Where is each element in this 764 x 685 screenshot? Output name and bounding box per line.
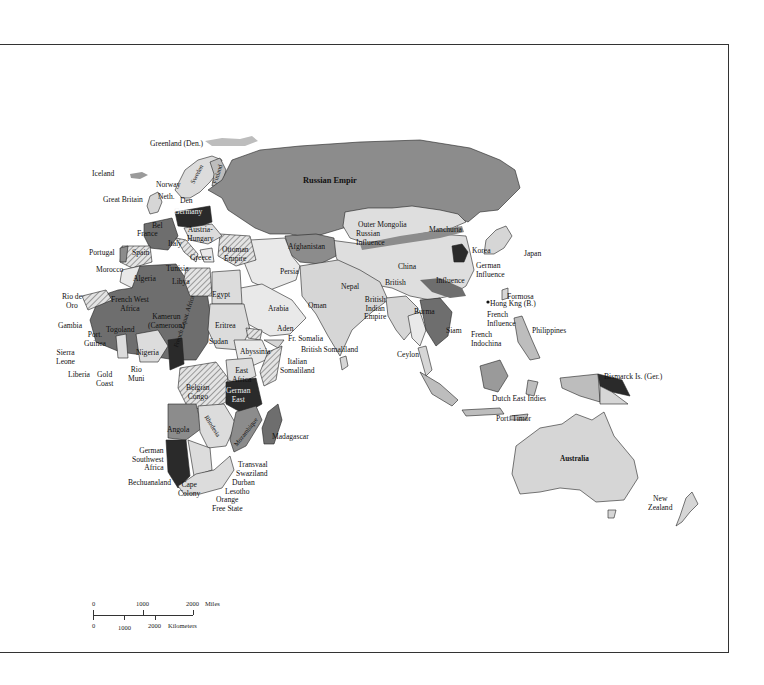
region-philippines — [514, 316, 540, 360]
label-liberia: Liberia — [68, 371, 90, 380]
label-sudan: Sudan — [209, 338, 228, 347]
region-eritrea — [246, 328, 262, 340]
label-russian-influence: Russian Influence — [356, 230, 385, 247]
label-oman: Oman — [308, 302, 327, 311]
label-hong-kong: Hong Kng (B.) — [490, 300, 536, 309]
scale-tick — [124, 615, 125, 620]
map-canvas — [0, 0, 764, 685]
label-gold-coast: Gold Coast — [96, 371, 113, 388]
label-philippines: Philippines — [532, 327, 566, 336]
scale-km-2000: 2000 — [148, 622, 161, 629]
label-british-china: British — [385, 279, 406, 288]
label-rio-muni: Rio Muni — [128, 366, 144, 383]
label-libya: Libya — [172, 278, 190, 287]
label-australia: Australia — [560, 455, 589, 464]
scale-km-unit: Kilometers — [168, 622, 197, 629]
label-arabia: Arabia — [268, 305, 289, 314]
label-cape-colony: Cape Colony — [178, 481, 200, 498]
label-bechuanaland: Bechuanaland — [128, 479, 171, 488]
scale-miles-0: 0 — [92, 600, 95, 607]
label-algeria: Algeria — [133, 275, 156, 284]
scale-tick — [143, 610, 144, 615]
label-great-britain: Great Britain — [103, 196, 143, 205]
label-sierra-leone: Sierra Leone — [56, 349, 75, 366]
label-new-zealand: New Zealand — [648, 495, 672, 512]
region-french-indochina — [420, 298, 452, 346]
region-tasmania — [608, 510, 616, 518]
label-manchuria: Manchuria — [429, 226, 462, 235]
label-bismarck-islands: Bismarck Is. (Ger.) — [604, 373, 662, 382]
label-russian-empire: Russian Empir — [303, 177, 357, 186]
label-fr-somalia: Fr. Somalia — [288, 335, 323, 344]
label-portugal: Portugal — [89, 249, 115, 258]
label-gambia: Gambia — [58, 322, 82, 331]
label-orange-free-state: Orange Free State — [212, 496, 243, 513]
label-belgian-congo: Belgian Congo — [186, 384, 210, 401]
region-new-guinea-dutch — [560, 374, 600, 402]
label-german-southwest-africa: German Southwest Africa — [132, 447, 164, 473]
region-sumatra — [420, 372, 458, 406]
scale-km-0: 0 — [92, 622, 95, 629]
scale-miles-unit: Miles — [205, 600, 220, 607]
label-german-east: German East — [226, 387, 250, 404]
region-gold-coast — [116, 334, 128, 358]
label-morocco: Morocco — [96, 266, 123, 275]
label-british-somaliland: British Somaliland — [301, 346, 358, 355]
label-dutch-east-indies: Dutch East Indies — [492, 395, 546, 404]
label-greenland: Greenland (Den.) — [150, 140, 203, 149]
label-port-guinea: Port. Guinea — [84, 331, 106, 348]
label-japan: Japan — [524, 250, 541, 259]
label-neth: Neth. — [158, 193, 175, 202]
scale-tick — [93, 610, 94, 620]
region-greenland — [205, 136, 258, 146]
scale-tick — [193, 610, 194, 615]
label-port-timor: Port. Timor — [496, 415, 531, 424]
label-austria-hungary: Austria- Hungary — [187, 226, 214, 243]
label-italian-somaliland: Italian Somaliland — [280, 358, 315, 375]
label-french-influence: French Influence — [487, 311, 516, 328]
label-tunisia: Tunisia — [166, 265, 189, 274]
label-east-africa: East Africa — [232, 367, 251, 384]
label-abyssinia: Abyssinia — [240, 348, 270, 357]
label-siam: Siam — [446, 327, 462, 336]
scale-miles-1000: 1000 — [136, 600, 149, 607]
label-iceland: Iceland — [92, 170, 114, 179]
region-iceland — [130, 172, 148, 179]
label-nigeria: Nigeria — [136, 349, 159, 358]
label-angola: Angola — [167, 426, 189, 435]
label-ceylon: Ceylon — [397, 351, 419, 360]
label-italy: Italy — [168, 240, 182, 249]
scale-line — [93, 615, 193, 616]
label-rio-de-oro: Rio de Oro — [62, 293, 82, 310]
label-togoland: Togoland — [106, 326, 135, 335]
label-germany: Germany — [174, 208, 202, 217]
region-new-zealand — [676, 492, 698, 526]
region-malaya — [418, 346, 432, 376]
scale-bar: 0 1000 2000 Miles 0 1000 2000 Kilometers — [92, 600, 252, 640]
label-nepal: Nepal — [341, 283, 359, 292]
label-spain: Spain — [132, 249, 149, 258]
label-madagascar: Madagascar — [272, 433, 309, 442]
scale-km-1000: 1000 — [118, 624, 131, 631]
label-afghanistan: Afghanistan — [288, 243, 325, 252]
region-borneo — [480, 360, 508, 392]
label-french-indochina: French Indochina — [471, 331, 501, 348]
scale-tick — [155, 615, 156, 620]
label-german-influence: German Influence — [476, 262, 505, 279]
label-eritrea: Eritrea — [215, 322, 236, 331]
label-ottoman-empire: Ottoman Empire — [222, 246, 249, 263]
label-norway: Norway — [156, 181, 180, 190]
label-influence-china: Influence — [436, 277, 465, 286]
label-french-west-africa: French West Africa — [111, 296, 149, 313]
label-china: China — [398, 263, 416, 272]
label-aden: Aden — [277, 325, 293, 334]
label-korea: Korea — [472, 247, 491, 256]
scale-miles-2000: 2000 — [186, 600, 199, 607]
label-den: Den — [180, 197, 193, 206]
region-angola — [168, 404, 202, 440]
label-france: France — [137, 230, 158, 239]
region-ceylon — [340, 356, 348, 370]
label-egypt: Egypt — [212, 291, 230, 300]
label-greece: Greece — [190, 254, 212, 263]
label-burma: Burma — [414, 308, 435, 317]
